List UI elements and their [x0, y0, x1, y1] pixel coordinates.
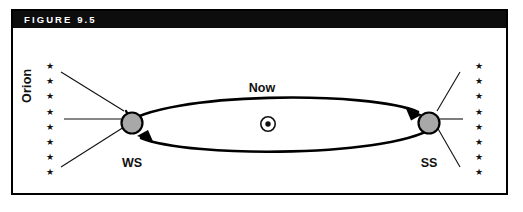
star-field-left: ★ ★ ★ ★ ★ ★ ★ ★ [46, 59, 54, 181]
planet-marker-ss [419, 113, 440, 134]
star-field-right: ★ ★ ★ ★ ★ ★ ★ ★ [475, 59, 483, 181]
star-icon: ★ [46, 74, 54, 89]
star-icon: ★ [46, 59, 54, 74]
star-icon: ★ [475, 165, 483, 180]
constellation-label-orion: Orion [20, 69, 34, 103]
sight-line-left-lower [61, 127, 124, 167]
star-icon: ★ [475, 74, 483, 89]
figure-frame: FIGURE 9.5 [11, 9, 508, 195]
star-icon: ★ [46, 165, 54, 180]
sight-lines-left [61, 72, 124, 167]
star-icon: ★ [475, 59, 483, 74]
diagram-canvas: ★ ★ ★ ★ ★ ★ ★ ★ ★ ★ ★ ★ ★ ★ ★ ★ Orion No… [13, 28, 506, 193]
orbit-arc-lower [141, 125, 437, 152]
star-icon: ★ [46, 120, 54, 135]
sight-line-right-lower [437, 127, 460, 167]
sight-lines-right [437, 72, 463, 167]
star-icon: ★ [475, 120, 483, 135]
position-label-ss: SS [421, 156, 438, 170]
star-icon: ★ [46, 135, 54, 150]
sun-symbol-icon [261, 117, 275, 131]
figure-title-bar: FIGURE 9.5 [13, 11, 506, 28]
orbit-label-now: Now [249, 81, 275, 95]
position-label-ws: WS [122, 156, 142, 170]
star-icon: ★ [475, 150, 483, 165]
star-icon: ★ [46, 150, 54, 165]
star-icon: ★ [475, 105, 483, 120]
star-icon: ★ [46, 89, 54, 104]
sight-line-right-upper [437, 72, 460, 111]
planet-marker-ws [122, 113, 143, 134]
sight-line-left-upper [61, 72, 124, 111]
star-icon: ★ [475, 135, 483, 150]
star-icon: ★ [475, 89, 483, 104]
star-icon: ★ [46, 105, 54, 120]
figure-title: FIGURE 9.5 [24, 14, 97, 25]
